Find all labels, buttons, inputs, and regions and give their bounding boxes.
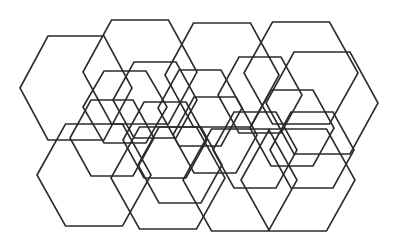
hexagon-pattern bbox=[0, 0, 399, 246]
hexagon-outline bbox=[123, 102, 207, 178]
hexagon-outline bbox=[266, 52, 378, 154]
hexagon-outline bbox=[83, 71, 167, 143]
hexagon-outline bbox=[218, 57, 302, 133]
